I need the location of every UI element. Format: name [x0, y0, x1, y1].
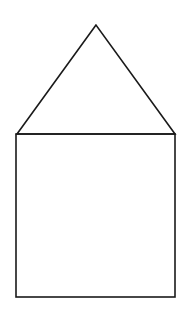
house-diagram — [0, 0, 190, 316]
house-body-rectangle — [16, 134, 175, 297]
house-drawing — [0, 0, 190, 316]
roof-triangle — [17, 25, 175, 134]
